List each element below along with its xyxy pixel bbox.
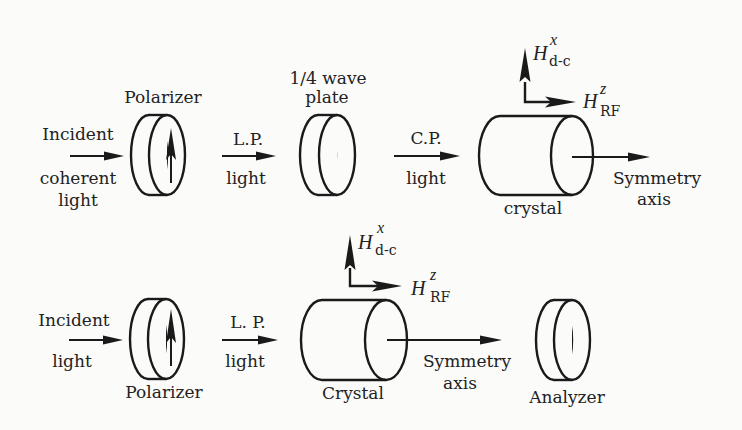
polarization-arrow-icon [166, 309, 176, 366]
top-axis-arrow-icon [572, 153, 650, 162]
svg-text:RF: RF [430, 289, 451, 305]
top-lp-light: L.P. light [222, 129, 276, 188]
bottom-polarizer-label: Polarizer [125, 382, 203, 402]
top-coherent-label: coherent [40, 168, 117, 188]
bottom-lp-label: L. P. [230, 312, 266, 332]
bottom-crystal: Crystal [301, 300, 407, 403]
crystal-cylinder-icon [479, 116, 593, 195]
waveplate-label-2: plate [305, 87, 348, 107]
bottom-axis-arrow-icon [387, 336, 502, 345]
bottom-axis-label-1: Symmetry [423, 351, 512, 371]
top-incident-label: Incident [42, 124, 114, 144]
analyzer-disk-icon [536, 299, 590, 381]
waveplate-disk-icon [300, 114, 355, 196]
polarizer-disk-icon [130, 298, 184, 380]
top-incident-light: Incident coherent light [40, 124, 124, 210]
quarter-wave-plate: 1/4 wave plate [289, 68, 366, 196]
top-axis-label-2: axis [637, 189, 671, 209]
svg-text:d-c: d-c [549, 53, 571, 69]
analyzer: Analyzer [528, 299, 605, 407]
analyzer-label: Analyzer [528, 387, 605, 407]
svg-text:H: H [582, 90, 599, 112]
waveplate-label-1: 1/4 wave [289, 68, 366, 88]
bottom-axis-label-2: axis [443, 373, 477, 393]
bottom-h-dc-label: H x d-c [357, 219, 397, 258]
top-cp-light: C.P. light [394, 128, 460, 188]
optical-diagram: Incident coherent light Polarizer [0, 0, 742, 430]
top-row: Incident coherent light Polarizer [40, 31, 702, 218]
bottom-h-rf-label: H z RF [410, 266, 451, 305]
svg-text:H: H [410, 277, 427, 299]
svg-text:x: x [376, 219, 384, 236]
bottom-incident-light: Incident light [38, 310, 123, 371]
svg-text:x: x [549, 31, 557, 48]
bottom-polarizer: Polarizer [125, 298, 203, 402]
top-lp-light-label: light [226, 168, 266, 188]
top-lp-label: L.P. [233, 129, 263, 149]
svg-text:RF: RF [600, 103, 621, 119]
svg-text:z: z [599, 80, 607, 97]
svg-text:d-c: d-c [375, 242, 397, 258]
top-lp-arrow-icon [222, 152, 276, 161]
svg-text:H: H [532, 42, 549, 64]
svg-text:H: H [357, 231, 374, 253]
svg-text:z: z [429, 266, 437, 283]
bottom-symmetry-axis: Symmetry axis [387, 336, 511, 394]
bottom-lp-light: L. P. light [222, 312, 278, 371]
top-h-rf-label: H z RF [582, 80, 621, 119]
bottom-field-vectors: H x d-c H z RF [345, 219, 451, 305]
top-h-dc-label: H x d-c [532, 31, 571, 69]
bottom-incident-arrow-icon [69, 336, 123, 345]
top-polarizer-label: Polarizer [124, 87, 202, 107]
top-crystal-label: crystal [504, 198, 562, 218]
top-symmetry-axis: Symmetry axis [572, 153, 701, 210]
bottom-row: Incident light Polarizer L. [38, 219, 605, 407]
bottom-incident-label: Incident [38, 310, 110, 330]
cp-arrow-icon [394, 152, 460, 161]
top-crystal: crystal [479, 116, 593, 218]
bottom-lp-light-label: light [225, 351, 265, 371]
bottom-light-label: light [52, 351, 92, 371]
cp-light-label: light [406, 168, 446, 188]
polarizer-disk-icon [131, 114, 185, 196]
top-axis-label-1: Symmetry [613, 168, 702, 188]
polarization-arrow-icon [166, 128, 176, 183]
bottom-lp-arrow-icon [222, 336, 278, 345]
bottom-crystal-label: Crystal [322, 383, 384, 403]
cp-label: C.P. [410, 128, 441, 148]
top-polarizer: Polarizer [124, 87, 202, 196]
top-field-vectors: H x d-c H z RF [520, 31, 621, 119]
top-incident-arrow-icon [70, 152, 124, 161]
top-light-label: light [58, 190, 98, 210]
